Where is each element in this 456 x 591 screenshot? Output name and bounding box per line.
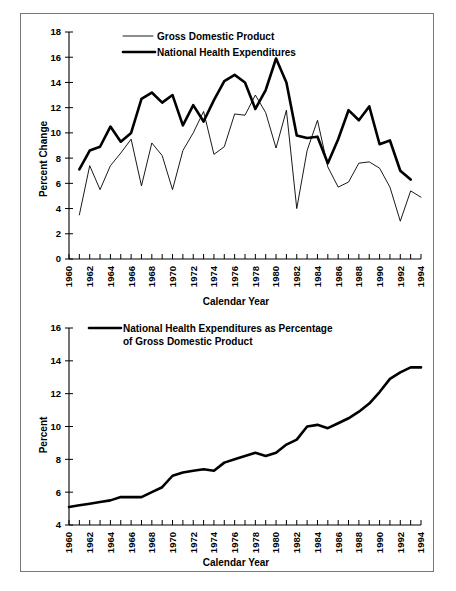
x-tick-label: 1976 <box>229 532 240 553</box>
x-tick-label: 1962 <box>84 266 95 287</box>
x-tick-label: 1962 <box>84 532 95 553</box>
y-tick-label: 14 <box>50 77 61 88</box>
chart-percent-of-gdp: 4681012141619601962196419661968197019721… <box>21 310 433 572</box>
y-tick-label: 18 <box>50 26 61 37</box>
x-tick-label: 1984 <box>312 265 323 287</box>
y-tick-label: 6 <box>56 178 61 189</box>
x-tick-label: 1982 <box>291 266 302 287</box>
x-tick-label: 1986 <box>333 266 344 287</box>
x-tick-label: 1972 <box>188 532 199 553</box>
x-tick-label: 1978 <box>250 532 261 553</box>
x-tick-label: 1994 <box>415 531 426 553</box>
y-tick-label: 10 <box>50 421 61 432</box>
y-tick-label: 8 <box>56 153 61 164</box>
figure-frame: 0246810121416181960196219641966196819701… <box>20 13 434 572</box>
chart-bottom-series <box>69 367 421 507</box>
x-tick-label: 1986 <box>333 532 344 553</box>
chart-bottom-axes: 4681012141619601962196419661968197019721… <box>50 322 426 553</box>
x-tick-label: 1990 <box>374 266 385 287</box>
x-tick-label: 1972 <box>188 266 199 287</box>
series-line-0 <box>79 95 421 221</box>
x-axis-title-top: Calendar Year <box>203 296 270 307</box>
y-tick-label: 4 <box>56 519 62 530</box>
chart-top-axes: 0246810121416181960196219641966196819701… <box>50 26 426 287</box>
chart-top-legend: Gross Domestic Product National Health E… <box>123 31 296 58</box>
chart-bottom-svg: 4681012141619601962196419661968197019721… <box>21 310 435 572</box>
chart-top-svg: 0246810121416181960196219641966196819701… <box>21 14 435 310</box>
y-tick-label: 6 <box>56 487 61 498</box>
x-tick-label: 1966 <box>126 266 137 287</box>
chart-bottom-legend: National Health Expenditures as Percenta… <box>89 323 333 347</box>
x-tick-label: 1982 <box>291 532 302 553</box>
y-tick-label: 12 <box>50 388 61 399</box>
x-tick-label: 1980 <box>270 532 281 553</box>
x-tick-label: 1964 <box>105 265 116 287</box>
x-tick-label: 1994 <box>415 265 426 287</box>
chart-top-series <box>79 58 421 221</box>
y-tick-label: 14 <box>50 355 61 366</box>
x-tick-label: 1980 <box>270 266 281 287</box>
x-tick-label: 1988 <box>353 532 364 553</box>
x-tick-label: 1968 <box>146 266 157 287</box>
legend-label-nhe-pct-line1: National Health Expenditures as Percenta… <box>123 323 333 334</box>
x-tick-label: 1964 <box>105 531 116 553</box>
x-tick-label: 1978 <box>250 266 261 287</box>
y-axis-title-bottom: Percent <box>38 416 49 453</box>
series-line-0 <box>69 367 421 507</box>
x-tick-label: 1974 <box>208 265 219 287</box>
x-tick-label: 1960 <box>63 266 74 287</box>
chart-percent-change: 0246810121416181960196219641966196819701… <box>21 14 433 310</box>
legend-label-gdp: Gross Domestic Product <box>157 31 275 42</box>
y-tick-label: 4 <box>56 203 62 214</box>
x-tick-label: 1984 <box>312 531 323 553</box>
x-tick-label: 1970 <box>167 266 178 287</box>
x-tick-label: 1970 <box>167 532 178 553</box>
x-tick-label: 1988 <box>353 266 364 287</box>
y-tick-label: 16 <box>50 52 61 63</box>
series-line-1 <box>79 58 410 179</box>
x-tick-label: 1968 <box>146 532 157 553</box>
y-tick-label: 12 <box>50 102 61 113</box>
legend-label-nhe-pct-line2: of Gross Domestic Product <box>123 336 253 347</box>
x-tick-label: 1992 <box>395 532 406 553</box>
y-tick-label: 16 <box>50 322 61 333</box>
x-tick-label: 1992 <box>395 266 406 287</box>
x-axis-title-bottom: Calendar Year <box>203 557 270 568</box>
x-tick-label: 1976 <box>229 266 240 287</box>
y-tick-label: 8 <box>56 454 61 465</box>
x-tick-label: 1974 <box>208 531 219 553</box>
y-tick-label: 2 <box>56 228 61 239</box>
x-tick-label: 1990 <box>374 532 385 553</box>
y-axis-title-top: Percent Change <box>38 120 49 197</box>
y-tick-label: 0 <box>56 253 61 264</box>
legend-label-nhe: National Health Expenditures <box>157 47 296 58</box>
x-tick-label: 1960 <box>63 532 74 553</box>
y-tick-label: 10 <box>50 127 61 138</box>
x-tick-label: 1966 <box>126 532 137 553</box>
